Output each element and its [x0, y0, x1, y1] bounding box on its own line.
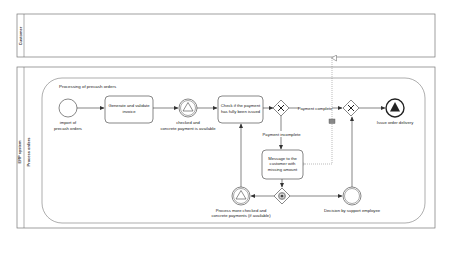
decision-label: Decision by support employee: [324, 208, 381, 213]
end-event-label: Issue order delivery: [377, 120, 414, 125]
checked-event-label-2: concrete payment is available: [160, 126, 216, 131]
task-message-customer[interactable]: Message to the customer with missing amo…: [262, 150, 303, 179]
task-check-label-2: has fully been issued: [221, 109, 261, 114]
pool-erp-label: ERP system: [17, 140, 22, 163]
subprocess-label: Processing of precash orders: [59, 84, 117, 89]
flow-label-payment-incomplete: Payment incomplete: [263, 132, 302, 137]
task-generate-label-1: Generate and validate: [108, 103, 150, 108]
start-event-label-2: precash orders: [54, 126, 82, 131]
start-event-label-1: import of: [60, 120, 77, 125]
task-check-label-1: Check if the payment: [221, 103, 261, 108]
pool-customer[interactable]: Customer: [17, 14, 435, 57]
pentagon-icon: [280, 194, 283, 197]
lane-process-orders-label: Process orders: [26, 137, 31, 167]
pool-customer-label: Customer: [18, 26, 23, 45]
task-message-label-3: missing amount: [268, 167, 298, 172]
task-message-label-2: customer with: [270, 161, 297, 166]
process-more-label-1: Process more checked and: [216, 208, 267, 213]
bpmn-diagram: Customer ERP system Process orders Proce…: [0, 0, 451, 260]
task-generate-label-2: invoice: [122, 109, 136, 114]
task-message-label-1: Message to the: [268, 156, 297, 161]
pool-erp[interactable]: ERP system Process orders: [17, 67, 435, 228]
flow-label-payment-complete: Payment complete: [298, 106, 333, 111]
checked-event-label-1: checked and: [176, 120, 200, 125]
envelope-icon: [329, 119, 335, 124]
task-check-payment[interactable]: Check if the payment has fully been issu…: [218, 96, 263, 123]
process-more-label-2: concrete payments (if available): [211, 213, 271, 218]
task-generate-invoice[interactable]: Generate and validate invoice: [105, 96, 153, 123]
